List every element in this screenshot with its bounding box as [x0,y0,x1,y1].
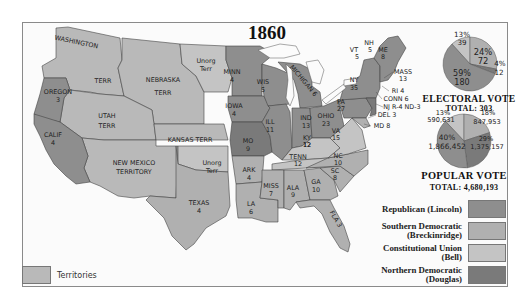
electoral-vote-pie [443,37,497,91]
legend-northern-democratic-swatch [468,266,506,284]
label-md: MD 8 [374,122,391,130]
legend-constitutional-union-swatch [468,244,506,262]
label-la-ev: 6 [249,208,253,216]
map-title: 1860 [227,22,307,44]
label-ky-ev-alt: 12 [303,141,311,149]
legend-southern-democratic-label: Southern Democratic(Breckinridge) [382,222,462,240]
label-mo: MO [243,137,254,145]
label-texas-ev: 4 [197,207,201,215]
label-ill-ev: 11 [266,126,274,134]
label-ga-ev: 10 [312,186,320,194]
ev-lincoln-pct: 59% [453,69,471,78]
label-ny: NY [350,76,359,84]
legend-territories-swatch [22,266,51,284]
legend-northern-democratic: Northern Democratic(Douglas) [381,266,506,284]
pop-lincoln-pct: 40% [439,133,455,142]
label-utah-terr: TERR [98,122,116,130]
electoral-vote-total: TOTAL: 303 [420,104,518,113]
pop-breck-value: 847,953 [473,118,500,126]
label-ind-ev: 13 [302,122,310,130]
label-nc-ev: 10 [334,159,342,167]
label-mo-ev: 9 [246,145,250,153]
label-nh-ev: 5 [368,46,372,54]
state-new-york [340,58,380,100]
legend-territories: Territories [22,266,97,284]
label-wis-ev: 5 [261,86,265,94]
ev-douglas-value: 12 [494,68,503,77]
label-del: DEL 3 [378,111,397,119]
label-ga: GA [311,178,321,186]
ev-douglas-pct: 4% [494,59,506,68]
label-unorg-north-2: Terr [199,65,212,73]
label-utah: UTAH [98,112,115,120]
label-miss: MISS [263,182,279,190]
label-ind: IND [300,114,312,122]
label-oregon: OREGON [44,88,72,96]
label-texas: TEXAS [188,199,210,207]
label-ny-ev: 35 [350,84,358,92]
legend-southern-democratic: Southern Democratic(Breckinridge) [382,222,506,240]
label-sc-ev: 8 [333,174,337,182]
label-ark: ARK [242,166,256,174]
electoral-vote-caption: ELECTORAL VOTE [420,93,518,104]
label-nebraska-terr: TERR [154,89,172,97]
state-florida [296,200,350,252]
label-iowa-ev: 4 [232,110,236,118]
pop-douglas-pct: 29% [479,135,494,143]
label-calif: CALIF [44,131,62,139]
label-nj: NJ R-4 ND-3 [383,103,420,111]
label-mass-ev: 13 [399,75,407,83]
legend-southern-democratic-swatch [468,222,506,240]
label-kansas: KANSAS TERR [168,136,213,144]
legend-republican-label: Republican (Lincoln) [382,205,462,214]
legend-republican-swatch [468,200,506,218]
legend-territories-label: Territories [57,271,97,280]
label-me-ev: 8 [381,53,385,61]
label-oregon-ev: 3 [56,96,60,104]
label-new-mexico: NEW MEXICO [113,159,155,167]
ev-breck-value: 72 [478,56,489,66]
pop-bell-value: 590,631 [427,116,454,124]
ev-bell-value: 39 [457,38,467,47]
label-pa-ev: 27 [337,105,345,113]
label-unorg-north: Unorg [196,57,215,65]
label-washington-terr: TERR [94,77,112,85]
pop-douglas-value: 1,375,157 [470,143,504,151]
label-wis: WIS [257,78,269,86]
label-minn-ev: 4 [230,76,234,84]
label-la: LA [247,200,256,208]
label-va-ev: 15 [332,134,340,142]
label-new-mexico-2: TERRITORY [115,168,152,176]
leader-ri [382,86,389,91]
label-ri: RI 4 [392,87,404,95]
label-ill: ILL [265,118,274,126]
label-ohio: OHIO [318,112,335,120]
pop-lincoln-value: 1,866,452 [428,142,466,151]
label-minn: MINN [224,68,241,76]
label-unorg-south: Unorg [202,159,221,167]
popular-vote-total: TOTAL: 4,680,193 [412,183,516,192]
label-tenn-ev: 12 [294,160,302,168]
popular-vote-caption: POPULAR VOTE [412,170,516,181]
label-ark-ev: 4 [247,174,251,182]
label-ala-ev: 9 [291,191,295,199]
label-vt-ev: 5 [355,53,359,61]
label-miss-ev: 7 [269,190,273,198]
leader-nj [376,104,383,107]
label-nebraska: NEBRASKA [146,76,181,84]
label-ohio-ev: 23 [322,120,330,128]
ev-lincoln-value: 180 [454,78,469,87]
legend-republican: Republican (Lincoln) [382,200,506,218]
label-conn: CONN 6 [383,95,408,103]
label-unorg-south-2: Terr [205,167,218,175]
legend-constitutional-union: Constitutional Union(Bell) [383,244,506,262]
label-calif-ev: 4 [51,139,55,147]
label-iowa: IOWA [225,102,243,110]
legend-northern-democratic-label: Northern Democratic(Douglas) [381,266,462,284]
legend-constitutional-union-label: Constitutional Union(Bell) [383,244,462,262]
